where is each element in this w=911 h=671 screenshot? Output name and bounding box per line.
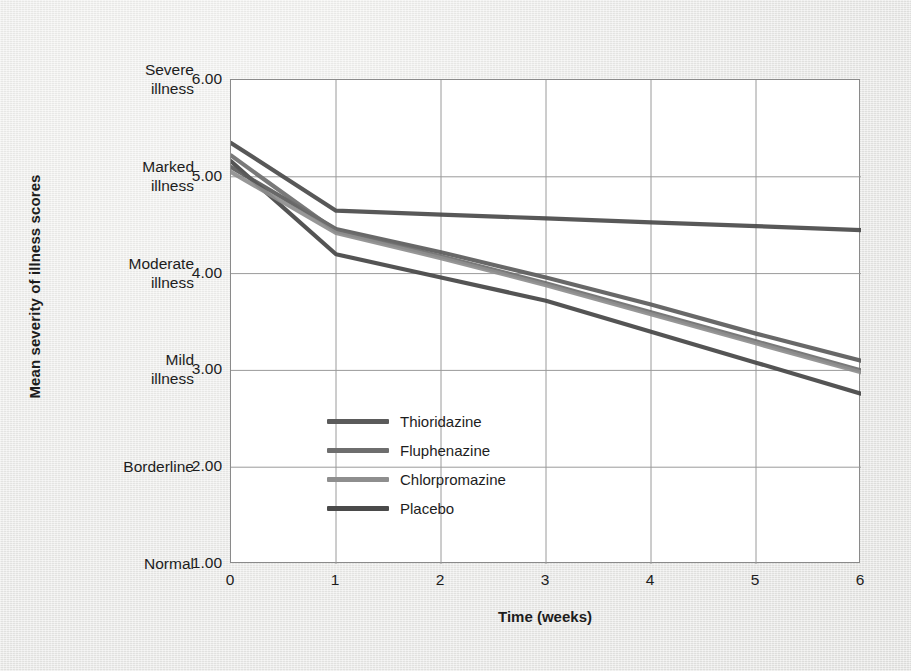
x-tick-5: 5 (735, 571, 775, 589)
plot-svg (231, 80, 861, 564)
y-tick-value-6-00: 6.00 (152, 70, 222, 88)
legend-item-fluphenazine[interactable]: Fluphenazine (327, 436, 506, 465)
x-tick-4: 4 (630, 571, 670, 589)
chart-legend: ThioridazineFluphenazineChlorpromazinePl… (327, 407, 506, 523)
y-tick-value-4-00: 4.00 (152, 264, 222, 282)
x-tick-6: 6 (840, 571, 880, 589)
x-tick-1: 1 (315, 571, 355, 589)
legend-label-thioridazine: Thioridazine (400, 413, 482, 430)
legend-label-fluphenazine: Fluphenazine (400, 442, 490, 459)
legend-swatch-placebo (327, 506, 389, 511)
y-tick-value-2-00: 2.00 (152, 457, 222, 475)
y-tick-value-1-00: 1.00 (152, 554, 222, 572)
legend-swatch-thioridazine (327, 419, 389, 424)
x-tick-0: 0 (210, 571, 250, 589)
legend-swatch-fluphenazine (327, 448, 389, 453)
y-axis-title: Mean severity of illness scores (26, 157, 43, 417)
legend-item-chlorpromazine[interactable]: Chlorpromazine (327, 465, 506, 494)
x-tick-2: 2 (420, 571, 460, 589)
y-tick-value-3-00: 3.00 (152, 360, 222, 378)
x-axis-title: Time (weeks) (230, 608, 860, 625)
line-chart-figure: Mean severity of illness scores Severeil… (0, 0, 911, 671)
y-tick-value-5-00: 5.00 (152, 167, 222, 185)
legend-label-chlorpromazine: Chlorpromazine (400, 471, 506, 488)
plot-area: ThioridazineFluphenazineChlorpromazinePl… (230, 79, 860, 563)
legend-swatch-chlorpromazine (327, 477, 389, 482)
legend-item-placebo[interactable]: Placebo (327, 494, 506, 523)
legend-label-placebo: Placebo (400, 500, 454, 517)
x-tick-3: 3 (525, 571, 565, 589)
legend-item-thioridazine[interactable]: Thioridazine (327, 407, 506, 436)
